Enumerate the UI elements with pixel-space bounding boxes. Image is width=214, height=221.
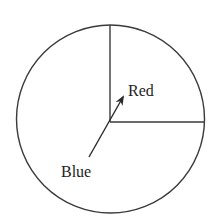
spinner-figure: Red Blue: [0, 0, 214, 221]
spinner-arrow-icon: [89, 97, 123, 157]
spinner-diagram: Red Blue: [0, 0, 214, 221]
region-label-blue: Blue: [61, 163, 91, 180]
region-label-red: Red: [128, 82, 154, 99]
